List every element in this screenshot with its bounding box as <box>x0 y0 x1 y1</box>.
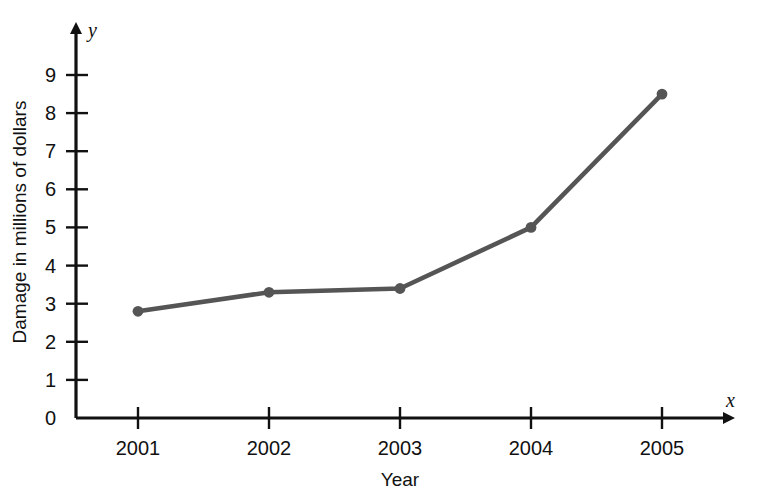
x-tick-label-2003: 2003 <box>355 438 445 458</box>
y-tick-label-0: 0 <box>16 408 56 428</box>
data-point-2005 <box>657 89 668 100</box>
data-series-line <box>138 94 662 311</box>
x-axis-title: Year <box>300 470 500 489</box>
y-tick-label-1: 1 <box>16 370 56 390</box>
x-tick-label-2001: 2001 <box>93 438 183 458</box>
data-point-2001 <box>133 306 144 317</box>
y-axis-variable-label: y <box>88 20 97 40</box>
data-point-2004 <box>526 222 537 233</box>
x-tick-label-2005: 2005 <box>617 438 707 458</box>
chart-plot-area <box>0 0 757 498</box>
x-axis-variable-label: x <box>726 390 735 410</box>
x-tick-label-2002: 2002 <box>224 438 314 458</box>
y-axis-title: Damage in millions of dollars <box>10 72 29 372</box>
x-tick-label-2004: 2004 <box>486 438 576 458</box>
data-point-markers <box>133 89 668 317</box>
chart-container: 0 1 2 3 4 5 6 7 8 9 2001 2002 2003 2004 … <box>0 0 757 498</box>
data-point-2003 <box>395 283 406 294</box>
data-point-2002 <box>264 287 275 298</box>
